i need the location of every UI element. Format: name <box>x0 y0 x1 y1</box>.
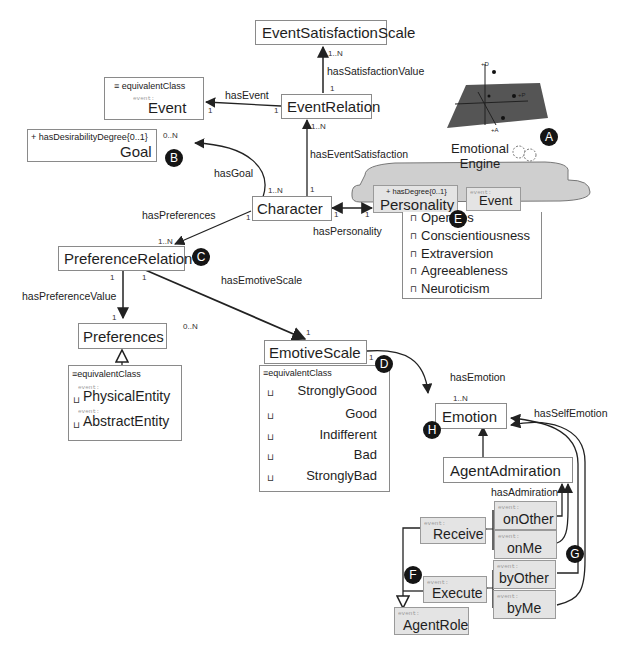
svg-text:+D: +D <box>481 61 490 67</box>
by-me-node[interactable]: event: byMe <box>493 590 556 619</box>
multiplicity: 0..N <box>163 131 178 140</box>
multiplicity: 1 <box>310 185 314 194</box>
union-icon: ⊔ <box>267 432 274 442</box>
node-title: EventRelation <box>287 98 380 115</box>
union-icon: ⊔ <box>267 388 274 398</box>
trait-conscientiousness: Conscientiousness <box>421 228 530 243</box>
edge-label-has-emotive-scale: hasEmotiveScale <box>221 274 302 286</box>
agent-admiration-node[interactable]: AgentAdmiration <box>443 457 573 483</box>
by-other-node[interactable]: event: byOther <box>493 560 556 589</box>
emotive-bad: Bad <box>354 447 377 462</box>
badge-h: H <box>423 421 441 439</box>
badge-g: G <box>566 545 584 563</box>
stereotype-label: event: <box>498 504 520 511</box>
event-node[interactable]: ≡ equivalentClass event: Event <box>104 77 204 120</box>
node-title: onOther <box>503 511 554 527</box>
node-title: EventSatisfactionScale <box>262 24 415 41</box>
edge-label-has-goal: hasGoal <box>214 167 253 179</box>
multiplicity: 1 <box>365 210 369 219</box>
multiplicity: 1 <box>246 213 250 222</box>
union-icon: ⊔ <box>267 473 274 483</box>
emotive-scale-equivalent-class-node[interactable]: ≡equivalentClass ⊔ StronglyGood ⊔ Good ⊔… <box>259 365 390 492</box>
on-other-node[interactable]: event: onOther <box>494 501 557 530</box>
node-title: Emotion <box>442 408 497 425</box>
trait-extraversion: Extraversion <box>421 246 493 261</box>
trait-neuroticism: Neuroticism <box>421 281 490 296</box>
edge-label-has-personality: hasPersonality <box>313 225 382 237</box>
equivalent-class-label: ≡equivalentClass <box>72 369 141 379</box>
svg-text:+A: +A <box>491 127 499 133</box>
multiplicity: 1..N <box>311 122 326 131</box>
edge-label-has-satisfaction-value: hasSatisfactionValue <box>327 65 424 77</box>
multiplicity: 1 <box>110 273 114 282</box>
node-title: Character <box>257 200 323 217</box>
personality-node[interactable]: + hasDegree{0..1} Personality <box>373 185 458 213</box>
gears-icon <box>513 146 536 161</box>
badge-c: C <box>192 248 210 266</box>
abstract-entity-item: AbstractEntity <box>83 413 169 429</box>
personality-attribute: + hasDegree{0..1} <box>386 187 447 196</box>
multiplicity: 1..N <box>268 186 283 195</box>
node-title: AgentAdmiration <box>450 462 561 479</box>
node-title: AgentRole <box>403 617 468 633</box>
badge-b: B <box>165 149 183 167</box>
svg-text:+P: +P <box>518 92 526 98</box>
node-title: Event <box>148 99 186 116</box>
badge-a: A <box>540 128 558 146</box>
emotive-scale-node[interactable]: EmotiveScale <box>264 340 367 364</box>
multiplicity: 0..N <box>183 322 198 331</box>
multiplicity: 1 <box>330 84 334 93</box>
preference-relation-node[interactable]: PreferenceRelation <box>58 246 185 271</box>
receive-node[interactable]: event: Receive <box>420 517 486 544</box>
edge-label-has-emotion: hasEmotion <box>450 371 505 383</box>
trait-agreeableness: Agreeableness <box>421 263 508 278</box>
execute-node[interactable]: event: Execute <box>423 576 487 603</box>
physical-entity-item: PhysicalEntity <box>83 388 170 404</box>
equivalent-class-label: ≡equivalentClass <box>263 368 332 378</box>
agent-role-node[interactable]: event: AgentRole <box>394 607 469 635</box>
node-title: EmotiveScale <box>269 344 361 361</box>
preferences-node[interactable]: Preferences <box>78 323 167 349</box>
goal-attribute: + hasDesirabilityDegree{0..1} <box>31 132 148 142</box>
edge-label-has-self-emotion: hasSelfEmotion <box>534 407 608 419</box>
intersection-icon: ⊓ <box>410 266 417 276</box>
goal-node[interactable]: + hasDesirabilityDegree{0..1} Goal <box>27 129 157 162</box>
equivalent-class-text: equivalentClass <box>122 81 186 91</box>
node-title: byOther <box>499 570 549 586</box>
emotive-indifferent: Indifferent <box>319 427 377 442</box>
union-icon: ⊔ <box>267 411 274 421</box>
equivalent-class-text: equivalentClass <box>268 368 332 378</box>
edge-label-has-admiration: hasAdmiration <box>491 486 558 498</box>
node-title: Preferences <box>83 328 164 345</box>
emotion-node[interactable]: Emotion <box>435 403 507 429</box>
stereotype-label: event: <box>497 593 519 600</box>
personality-event-node[interactable]: event: Event <box>466 187 521 211</box>
edge-label-has-preferences: hasPreferences <box>142 209 216 221</box>
node-title: Receive <box>433 526 484 542</box>
on-me-node[interactable]: event: onMe <box>494 530 557 559</box>
multiplicity: 1..N <box>158 237 173 246</box>
stereotype-label: event: <box>498 533 520 540</box>
node-title: Execute <box>432 585 483 601</box>
intersection-icon: ⊓ <box>410 249 417 259</box>
event-satisfaction-scale-node[interactable]: EventSatisfactionScale <box>255 20 387 45</box>
character-node[interactable]: Character <box>252 196 332 221</box>
multiplicity: 1 <box>142 273 146 282</box>
edge-label-has-event: hasEvent <box>225 89 269 101</box>
stereotype-label: event: <box>398 610 420 617</box>
union-icon: ⊔ <box>73 395 80 405</box>
union-icon: ⊔ <box>267 452 274 462</box>
equivalent-class-label: ≡ equivalentClass <box>114 81 185 91</box>
preferences-equivalent-class-node[interactable]: ≡equivalentClass event: ⊔ PhysicalEntity… <box>68 365 182 441</box>
multiplicity: 1 <box>334 210 338 219</box>
multiplicity: 1 <box>274 106 278 115</box>
emotive-strongly-good: StronglyGood <box>298 383 378 398</box>
engine-line-2: Engine <box>460 156 500 171</box>
event-relation-node[interactable]: EventRelation <box>281 94 372 119</box>
intersection-icon: ⊓ <box>410 213 417 223</box>
multiplicity: 1 <box>208 106 212 115</box>
badge-e: E <box>449 210 467 228</box>
edge-label-has-preference-value: hasPreferenceValue <box>22 290 116 302</box>
engine-line-1: Emotional <box>451 141 509 156</box>
emotive-strongly-bad: StronglyBad <box>306 468 377 483</box>
